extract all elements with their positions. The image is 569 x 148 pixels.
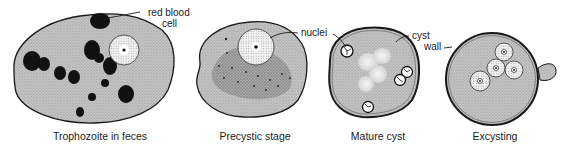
label-cyst: cyst [412, 31, 430, 41]
label-wall: wall [424, 42, 441, 52]
label-cell: cell [162, 19, 177, 29]
precystic-nucleus [238, 29, 274, 65]
trophozoite-nucleus [109, 35, 139, 65]
caption-excysting: Excysting [460, 130, 530, 142]
label-red-blood: red blood [148, 8, 190, 18]
precystic-cell [197, 22, 307, 117]
caption-mature-cyst: Mature cyst [338, 130, 418, 142]
caption-precystic: Precystic stage [210, 130, 300, 142]
mature-cyst-cell [329, 28, 419, 118]
label-nuclei: nuclei [301, 28, 327, 38]
excysting-cell [444, 33, 556, 125]
amoeba-life-cycle-diagram: red blood cell nuclei cyst wall Trophozo… [0, 0, 569, 148]
trophozoite-cell [14, 12, 174, 123]
caption-trophozoite: Trophozoite in feces [40, 130, 160, 142]
